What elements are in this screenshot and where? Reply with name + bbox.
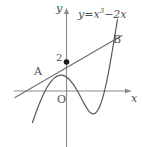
y-axis-label: y (56, 3, 62, 14)
curve-equation-label: y=x3−2x (78, 8, 127, 20)
graph-canvas (0, 0, 143, 147)
origin-label: O (57, 94, 66, 105)
x-axis (14, 88, 131, 93)
y-intercept-label: 2 (56, 53, 62, 63)
cubic-curve (33, 20, 118, 123)
point-a-label: A (34, 66, 42, 77)
point-b-label: B (113, 34, 121, 45)
secant-line (15, 36, 122, 98)
y-axis-arrowhead (64, 8, 69, 14)
graph-figure: y x O y=x3−2x A B 2 (0, 0, 143, 147)
equation-tail: −2x (104, 8, 126, 21)
x-axis-label: x (131, 93, 137, 104)
y-intercept-dot (64, 59, 70, 65)
